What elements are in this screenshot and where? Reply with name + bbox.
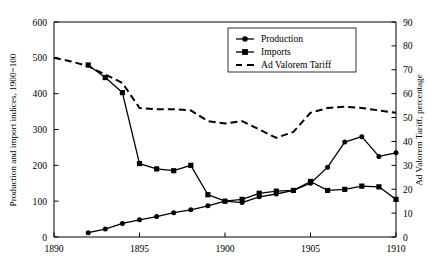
- data-point-imports: [274, 189, 279, 194]
- line-chart: 18901895190019051910 0100200300400500600…: [0, 0, 430, 273]
- data-point-imports: [308, 179, 313, 184]
- y2-tick-label: 80: [403, 40, 413, 51]
- y-tick-label: 500: [33, 52, 48, 63]
- data-point-imports: [222, 199, 227, 204]
- legend-label-imports: Imports: [261, 46, 291, 57]
- data-point-production: [103, 227, 108, 232]
- data-point-imports: [393, 197, 398, 202]
- data-point-imports: [154, 166, 159, 171]
- x-tick-label: 1900: [215, 243, 234, 254]
- legend-key-circle-marker: [242, 36, 248, 42]
- y-tick-label: 600: [33, 17, 48, 28]
- data-point-production: [154, 214, 159, 219]
- chart-background: [0, 0, 430, 273]
- data-point-imports: [376, 184, 381, 189]
- data-point-production: [394, 150, 399, 155]
- y-tick-label: 100: [33, 196, 48, 207]
- data-point-production: [325, 165, 330, 170]
- y-tick-label: 400: [33, 88, 48, 99]
- data-point-production: [376, 154, 381, 159]
- data-point-imports: [257, 191, 262, 196]
- data-point-production: [171, 210, 176, 215]
- data-point-production: [86, 230, 91, 235]
- x-tick-label: 1910: [386, 243, 405, 254]
- legend-label-ad-valorem-tariff: Ad Valorem Tariff: [261, 59, 332, 70]
- data-point-production: [359, 134, 364, 139]
- y2-tick-label: 50: [403, 112, 413, 123]
- legend-label-production: Production: [261, 33, 303, 44]
- y-axis-left-title: Production and import indices, 1900=100: [8, 53, 18, 206]
- data-point-imports: [342, 187, 347, 192]
- data-point-imports: [171, 168, 176, 173]
- y2-tick-label: 40: [403, 136, 413, 147]
- data-point-production: [120, 221, 125, 226]
- x-tick-label: 1895: [130, 243, 149, 254]
- y-tick-label: 300: [33, 124, 48, 135]
- legend-key-square-marker: [242, 49, 248, 55]
- chart-legend: ProductionImportsAd Valorem Tariff: [228, 28, 356, 72]
- data-point-production: [188, 207, 193, 212]
- y2-tick-label: 20: [403, 184, 413, 195]
- chart-container: 18901895190019051910 0100200300400500600…: [0, 0, 430, 273]
- x-tick-label: 1905: [301, 243, 320, 254]
- data-point-imports: [291, 188, 296, 193]
- data-point-imports: [205, 192, 210, 197]
- y2-tick-label: 60: [403, 88, 413, 99]
- y2-tick-label: 10: [403, 208, 413, 219]
- x-tick-label: 1890: [44, 243, 63, 254]
- data-point-production: [342, 140, 347, 145]
- y-tick-label: 200: [33, 160, 48, 171]
- data-point-imports: [359, 184, 364, 189]
- y2-tick-label: 70: [403, 64, 413, 75]
- data-point-imports: [188, 163, 193, 168]
- y2-tick-label: 0: [403, 232, 408, 243]
- data-point-imports: [137, 161, 142, 166]
- data-point-production: [137, 217, 142, 222]
- y2-tick-label: 30: [403, 160, 413, 171]
- data-point-imports: [325, 188, 330, 193]
- data-point-production: [205, 203, 210, 208]
- y2-tick-label: 90: [403, 17, 413, 28]
- data-point-imports: [120, 90, 125, 95]
- y-axis-right-title: Ad Valorem Tariff, percentage: [414, 74, 424, 186]
- data-point-imports: [240, 197, 245, 202]
- y-tick-label: 0: [42, 232, 47, 243]
